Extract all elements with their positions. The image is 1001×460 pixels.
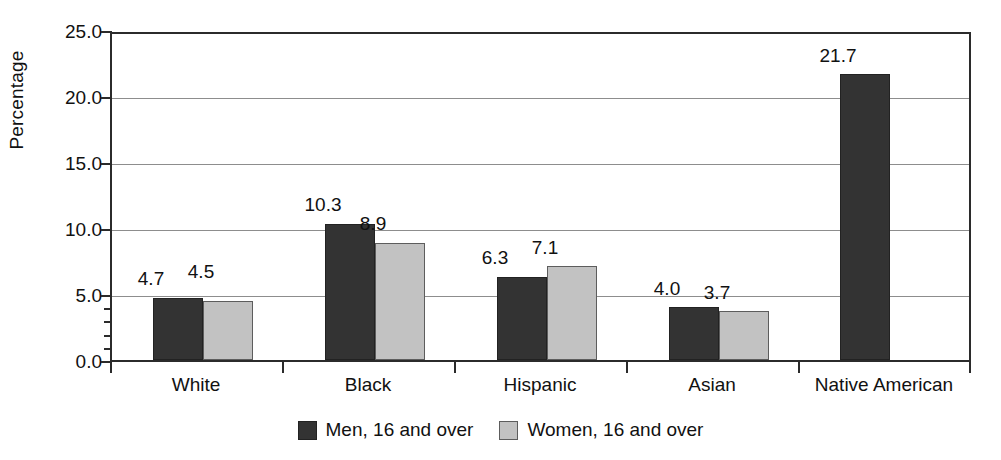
y-tick-label-20: 20.0 [32, 87, 102, 109]
y-tick-label-10: 10.0 [32, 219, 102, 241]
y-tick-label-5: 5.0 [32, 285, 102, 307]
y-tick-label-0: 0.0 [32, 351, 102, 373]
category-separator-0 [110, 362, 112, 373]
legend-label-men: Men, 16 and over [326, 419, 474, 441]
category-separator-1 [282, 362, 284, 373]
bar-black-men[interactable] [325, 224, 375, 360]
category-separator-5 [969, 362, 971, 373]
category-separator-4 [798, 362, 800, 373]
plot-area [110, 32, 971, 362]
bar-white-men[interactable] [153, 298, 203, 360]
legend-item-women[interactable]: Women, 16 and over [499, 419, 703, 441]
category-separator-3 [626, 362, 628, 373]
bar-white-women[interactable] [203, 301, 253, 360]
bar-asian-women[interactable] [719, 311, 769, 360]
y-tick-label-15: 15.0 [32, 153, 102, 175]
chart-legend: Men, 16 and over Women, 16 and over [0, 419, 1001, 441]
category-label-hispanic: Hispanic [440, 374, 640, 396]
y-tick-label-25: 25.0 [32, 21, 102, 43]
category-label-white: White [96, 374, 296, 396]
bar-value-native-american-men: 21.7 [808, 45, 868, 67]
bar-black-women[interactable] [375, 243, 425, 361]
bar-value-black-women: 8.9 [343, 213, 403, 235]
bar-value-asian-women: 3.7 [687, 282, 747, 304]
bar-value-hispanic-women: 7.1 [515, 237, 575, 259]
legend-swatch-women-icon [499, 421, 518, 440]
bar-hispanic-women[interactable] [547, 266, 597, 360]
category-label-black: Black [268, 374, 468, 396]
legend-item-men[interactable]: Men, 16 and over [298, 419, 474, 441]
bar-asian-men[interactable] [669, 307, 719, 360]
category-label-asian: Asian [612, 374, 812, 396]
category-label-native-american: Native American [784, 374, 984, 396]
y-axis-tick-labels: 25.0 20.0 15.0 10.0 5.0 0.0 [28, 32, 102, 362]
bar-hispanic-men[interactable] [497, 277, 547, 360]
bar-value-white-women: 4.5 [171, 261, 231, 283]
category-separator-2 [454, 362, 456, 373]
legend-label-women: Women, 16 and over [527, 419, 703, 441]
bar-native-american-men[interactable] [840, 74, 890, 360]
bar-chart: Percentage 25.0 20.0 15.0 10.0 5.0 0.0 [0, 0, 1001, 460]
legend-swatch-men-icon [298, 421, 317, 440]
